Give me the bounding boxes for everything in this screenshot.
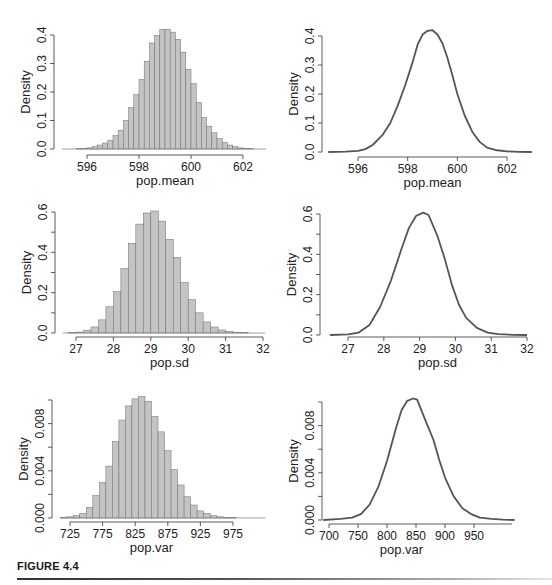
y-axis: 0.00.20.40.6Density <box>284 205 320 343</box>
histogram-bar <box>197 511 204 518</box>
y-tick-label: 0.2 <box>301 286 315 303</box>
y-tick-label: 0.3 <box>303 56 317 73</box>
x-tick-label: 31 <box>219 342 233 356</box>
histogram-bar <box>83 330 90 333</box>
x-axis-label: pop.var <box>130 540 174 555</box>
x-tick-label: 32 <box>256 342 270 356</box>
x-axis-label: pop.sd <box>150 355 189 370</box>
y-axis-label: Density <box>286 72 301 116</box>
histogram-bar <box>118 130 123 149</box>
x-tick-label: 600 <box>181 160 201 174</box>
histogram-bars <box>60 396 236 518</box>
x-tick-label: 700 <box>319 529 339 543</box>
x-axis: 272829303132pop.sd <box>69 337 270 370</box>
histogram-bar <box>227 145 232 149</box>
histogram-bar <box>181 52 186 149</box>
y-axis-label: Density <box>286 439 301 483</box>
y-axis: 0.00.10.20.30.4Density <box>286 27 322 160</box>
histogram-bar <box>129 108 134 149</box>
x-tick-label: 850 <box>406 529 426 543</box>
y-tick-label: 0.008 <box>33 408 47 438</box>
x-axis-label: pop.var <box>380 542 424 557</box>
x-tick-label: 875 <box>158 527 178 541</box>
y-tick-label: 0.0 <box>303 143 317 160</box>
figure-4-4: 0.00.10.20.30.4Density596598600602pop.me… <box>0 0 552 585</box>
histogram-bar <box>91 327 98 333</box>
histogram-bar <box>212 133 217 149</box>
y-tick-label: 0.4 <box>35 26 49 43</box>
caption-divider <box>17 578 552 580</box>
x-tick-label: 32 <box>520 342 534 356</box>
histogram-bar <box>144 61 149 149</box>
density-plot-pop-sd: 0.00.20.40.6Density272829303132pop.sd <box>284 205 534 370</box>
x-tick-label: 975 <box>223 527 243 541</box>
histogram-bars <box>69 211 249 333</box>
x-tick-label: 950 <box>464 529 484 543</box>
x-tick-label: 775 <box>93 527 113 541</box>
histogram-pop-var: 0.0000.0040.008Density725775825875925975… <box>16 396 265 555</box>
x-axis: 596598600602pop.mean <box>348 157 517 190</box>
y-axis: 0.0000.0040.008Density <box>16 400 52 533</box>
x-tick-label: 29 <box>144 342 158 356</box>
histogram-bar <box>123 121 128 150</box>
histogram-bar <box>103 143 108 149</box>
x-tick-label: 750 <box>348 529 368 543</box>
y-tick-label: 0.008 <box>303 410 317 440</box>
x-axis: 700750800850900950pop.var <box>319 524 512 557</box>
y-tick-label: 0.6 <box>36 203 50 220</box>
histogram-bar <box>98 320 105 333</box>
histogram-bars <box>77 29 254 149</box>
x-tick-label: 602 <box>497 162 517 176</box>
histogram-bar <box>181 283 188 333</box>
histogram-bar <box>175 39 180 149</box>
y-axis-label: Density <box>18 70 33 114</box>
histogram-bar <box>158 432 165 518</box>
histogram-bar <box>203 322 210 333</box>
x-axis-label: pop.mean <box>136 173 194 188</box>
histogram-bar <box>125 406 132 518</box>
histogram-bar <box>108 140 113 149</box>
y-tick-label: 0.4 <box>303 27 317 44</box>
histogram-bar <box>201 118 206 149</box>
histogram-bar <box>171 470 178 518</box>
y-axis-label: Density <box>19 250 34 294</box>
histogram-bar <box>139 79 144 149</box>
y-axis: 0.00.20.40.6Density <box>19 203 55 341</box>
density-curve <box>323 398 514 520</box>
histogram-bar <box>217 139 222 149</box>
y-axis: 0.0000.0040.008Density <box>286 402 322 535</box>
histogram-bar <box>136 224 143 333</box>
histogram-bar <box>178 485 185 518</box>
y-tick-label: 0.4 <box>36 244 50 261</box>
y-axis-label: Density <box>284 252 299 296</box>
x-tick-label: 27 <box>69 342 83 356</box>
histogram-bar <box>158 221 165 333</box>
histogram-bar <box>112 441 119 518</box>
x-tick-label: 900 <box>435 529 455 543</box>
y-tick-label: 0.4 <box>301 246 315 263</box>
density-plot-pop-mean: 0.00.10.20.30.4Density596598600602pop.me… <box>286 27 532 190</box>
y-tick-label: 0.004 <box>303 457 317 487</box>
histogram-bar <box>86 507 93 518</box>
histogram-bar <box>113 292 120 333</box>
histogram-bar <box>184 497 191 518</box>
histogram-bar <box>160 29 165 149</box>
histogram-bar <box>93 496 100 518</box>
histogram-bar <box>106 466 113 518</box>
x-tick-label: 925 <box>190 527 210 541</box>
y-tick-label: 0.1 <box>303 114 317 131</box>
histogram-bar <box>165 451 172 518</box>
histogram-bar <box>143 213 150 333</box>
x-axis-label: pop.mean <box>404 175 462 190</box>
x-axis: 725775825875925975pop.var <box>60 522 243 555</box>
y-tick-label: 0.2 <box>303 85 317 102</box>
histogram-bar <box>106 307 113 333</box>
histogram-bar <box>173 257 180 333</box>
histogram-bar <box>149 43 154 149</box>
x-tick-label: 28 <box>377 342 391 356</box>
histogram-bar <box>113 136 118 149</box>
histogram-bar <box>99 483 106 518</box>
y-tick-label: 0.0 <box>36 324 50 341</box>
x-tick-label: 28 <box>107 342 121 356</box>
density-curve <box>330 213 527 335</box>
